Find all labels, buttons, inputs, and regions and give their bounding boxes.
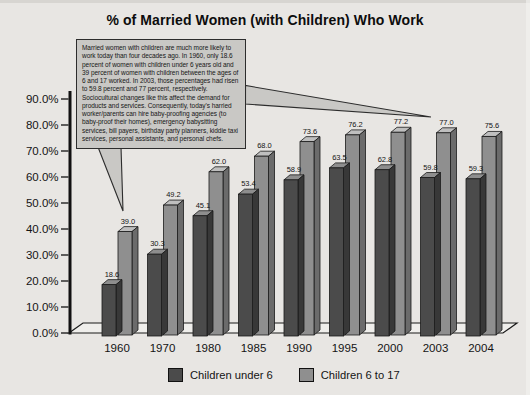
- legend-swatch-children-6-to-17: [299, 368, 314, 382]
- bar-side-face: [162, 249, 168, 336]
- bar-side-face: [435, 173, 441, 336]
- legend-label-children-6-to-17: Children 6 to 17: [321, 369, 400, 381]
- value-label: 58.9: [287, 165, 302, 174]
- value-label: 62.8: [378, 155, 393, 164]
- x-category-label: 2004: [468, 342, 494, 354]
- value-label: 53.4: [241, 179, 256, 188]
- bar-side-face: [132, 227, 138, 335]
- value-label: 63.5: [332, 153, 347, 162]
- bar-side-face: [223, 167, 229, 335]
- legend: Children under 6 Children 6 to 17: [168, 367, 400, 383]
- value-label: 59.3: [469, 164, 484, 173]
- bar-children-under-6: [239, 194, 253, 336]
- bar-children-under-6: [284, 180, 298, 336]
- bar-side-face: [451, 128, 457, 335]
- y-tick-label: 10.0%: [26, 301, 59, 313]
- y-tick-label: 60.0%: [26, 171, 59, 183]
- bar-side-face: [480, 174, 486, 336]
- value-label: 73.6: [303, 127, 318, 136]
- x-category-label: 1985: [241, 342, 267, 354]
- value-label: 59.8: [423, 163, 438, 172]
- value-label: 76.2: [348, 120, 363, 129]
- bar-children-under-6: [375, 170, 389, 336]
- value-label: 75.6: [485, 121, 500, 130]
- y-tick-label: 0.0%: [32, 327, 58, 339]
- chart-panel: % of Married Women (with Children) Who W…: [0, 0, 530, 395]
- y-tick-label: 40.0%: [26, 223, 59, 235]
- y-tick-label: 70.0%: [26, 145, 59, 157]
- bar-children-under-6: [102, 285, 116, 336]
- x-category-label: 1995: [332, 342, 358, 354]
- value-label: 45.1: [196, 201, 211, 210]
- bar-side-face: [360, 130, 366, 335]
- bar-side-face: [253, 189, 259, 336]
- value-label: 77.0: [439, 118, 454, 127]
- y-tick-label: 50.0%: [26, 197, 59, 209]
- callout-tail-1960: [98, 147, 123, 211]
- annotation-text: Married women with children are much mor…: [82, 44, 238, 142]
- bar-side-face: [344, 163, 350, 336]
- callout-tail-2003: [246, 86, 432, 118]
- bar-side-face: [207, 211, 213, 336]
- y-tick-label: 20.0%: [26, 275, 59, 287]
- value-label: 30.3: [150, 239, 165, 248]
- bar-side-face: [314, 137, 320, 335]
- value-label: 77.2: [394, 117, 409, 126]
- value-label: 68.0: [257, 141, 272, 150]
- value-label: 18.6: [105, 270, 120, 279]
- bar-children-under-6: [330, 168, 344, 336]
- bar-side-face: [178, 200, 184, 335]
- bar-side-face: [298, 175, 304, 336]
- bar-side-face: [116, 280, 122, 336]
- bar-side-face: [389, 165, 395, 336]
- x-category-label: 1970: [150, 342, 176, 354]
- y-tick-label: 90.0%: [26, 93, 59, 105]
- x-category-label: 2003: [423, 342, 449, 354]
- bar-side-face: [269, 151, 275, 335]
- bar-children-under-6: [421, 178, 435, 336]
- value-label: 62.0: [212, 157, 227, 166]
- bar-children-under-6: [148, 254, 162, 336]
- annotation-callout: Married women with children are much mor…: [76, 39, 246, 149]
- legend-item-children-under-6: Children under 6: [168, 368, 273, 382]
- legend-item-children-6-to-17: Children 6 to 17: [299, 368, 400, 382]
- bar-side-face: [496, 131, 502, 335]
- y-tick-label: 30.0%: [26, 249, 59, 261]
- y-tick-label: 80.0%: [26, 119, 59, 131]
- x-category-label: 1980: [195, 342, 221, 354]
- bar-children-under-6: [466, 179, 480, 336]
- legend-swatch-children-under-6: [168, 368, 183, 382]
- value-label: 39.0: [121, 217, 136, 226]
- x-category-label: 2000: [377, 342, 403, 354]
- bar-side-face: [405, 127, 411, 335]
- value-label: 49.2: [166, 190, 181, 199]
- x-category-label: 1960: [104, 342, 130, 354]
- bar-children-under-6: [193, 216, 207, 336]
- x-category-label: 1990: [286, 342, 312, 354]
- legend-label-children-under-6: Children under 6: [190, 369, 273, 381]
